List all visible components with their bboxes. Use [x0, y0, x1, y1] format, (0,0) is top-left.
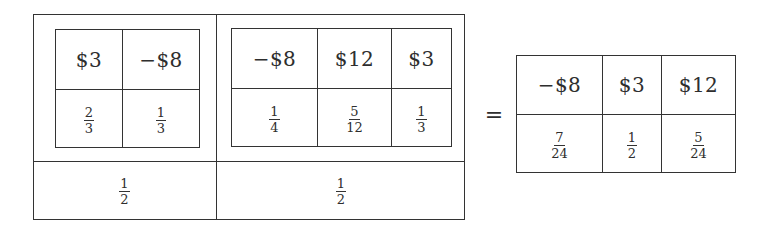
outcome-value: −$8 [232, 29, 318, 89]
outcome-probability: 12 [603, 115, 662, 173]
fraction: 23 [84, 106, 94, 135]
denominator: 2 [120, 192, 128, 206]
lottery-table-2: −$8 $12 $3 14 512 13 [231, 28, 452, 147]
outcome-probability: 512 [318, 89, 392, 147]
outcome-probability: 13 [392, 89, 452, 147]
denominator: 2 [628, 146, 636, 160]
numerator: 1 [156, 106, 166, 121]
numerator: 2 [84, 106, 94, 121]
numerator: 5 [693, 131, 703, 146]
outcome-value: $3 [603, 56, 662, 115]
outcome-value: −$8 [123, 30, 200, 90]
fraction: 13 [416, 105, 426, 134]
numerator: 1 [627, 131, 637, 146]
fraction: 512 [346, 105, 363, 134]
panel-weight-2: 12 [217, 162, 465, 220]
panel-weight-1: 12 [33, 162, 216, 220]
outcome-value: $3 [392, 29, 452, 89]
lottery-table-1: $3 −$8 23 13 [55, 29, 200, 148]
outcome-value: $12 [662, 56, 736, 115]
fraction: 724 [551, 131, 568, 160]
denominator: 24 [551, 146, 568, 160]
numerator: 1 [416, 105, 426, 120]
result-lottery-table: −$8 $3 $12 724 12 524 [516, 55, 736, 173]
fraction: 524 [690, 131, 707, 160]
outcome-probability: 524 [662, 115, 736, 173]
outcome-value: $12 [318, 29, 392, 89]
fraction: 12 [336, 177, 346, 206]
fraction: 12 [119, 177, 129, 206]
denominator: 4 [270, 120, 278, 134]
outcome-probability: 13 [123, 90, 200, 148]
equals-sign: = [484, 102, 504, 127]
outcome-probability: 724 [517, 115, 603, 173]
numerator: 1 [336, 177, 346, 192]
outcome-value: $3 [56, 30, 123, 90]
outcome-probability: 14 [232, 89, 318, 147]
outcome-value: −$8 [517, 56, 603, 115]
denominator: 24 [690, 146, 707, 160]
denominator: 3 [85, 121, 93, 135]
denominator: 3 [417, 120, 425, 134]
denominator: 2 [337, 192, 345, 206]
denominator: 3 [157, 121, 165, 135]
fraction: 12 [627, 131, 637, 160]
denominator: 12 [346, 120, 363, 134]
numerator: 1 [119, 177, 129, 192]
fraction: 14 [269, 105, 279, 134]
fraction: 13 [156, 106, 166, 135]
numerator: 1 [269, 105, 279, 120]
numerator: 7 [554, 131, 564, 146]
numerator: 5 [349, 105, 359, 120]
outcome-probability: 23 [56, 90, 123, 148]
